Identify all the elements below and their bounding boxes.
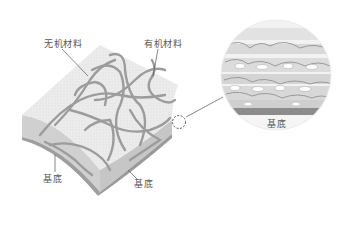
leader-to-zoom [186, 97, 223, 117]
label-inorganic-material: 无机材料 [44, 37, 82, 50]
zoom-region-marker [173, 116, 186, 129]
label-substrate-left: 基底 [43, 172, 62, 185]
label-substrate-zoom: 基底 [267, 117, 286, 130]
label-substrate-bottom: 基底 [134, 177, 153, 190]
label-organic-material: 有机材料 [144, 37, 182, 50]
